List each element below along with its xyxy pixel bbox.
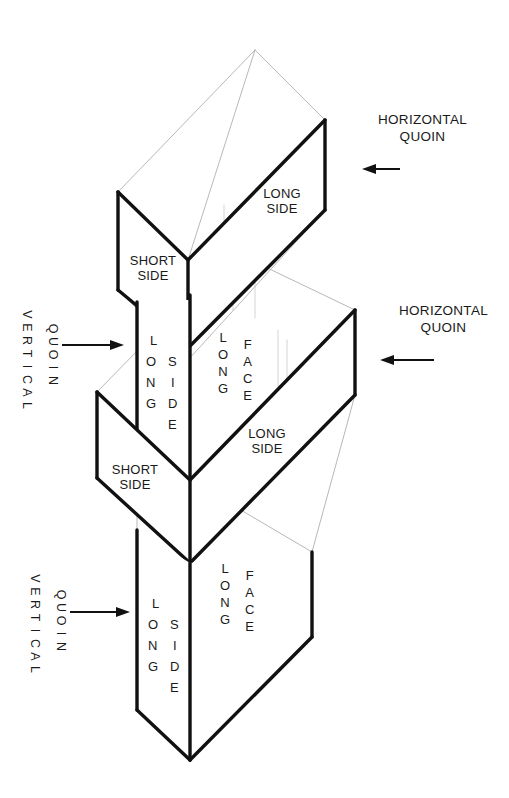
- horizontal-quoin-middle-arrow: [380, 355, 434, 365]
- llf-face-f: F: [246, 568, 254, 585]
- llf-long-g: G: [220, 612, 230, 629]
- vq-l-t: T: [28, 614, 41, 622]
- vq-l-o: O: [54, 616, 67, 626]
- horizontal-quoin-top-arrow: [362, 164, 400, 174]
- horizontal-quoin-top-line1: HORIZONTAL: [355, 112, 490, 129]
- vq-u-q: Q: [46, 324, 59, 334]
- llf-face-e: E: [245, 619, 254, 636]
- lower-long-face-face-word: F A C E: [245, 568, 254, 636]
- middle-short-side-label: SHORT SIDE: [106, 462, 164, 493]
- top-long-side-label: LONG SIDE: [253, 186, 311, 217]
- ll-long-g: G: [148, 659, 158, 674]
- ll-side-d: D: [170, 659, 179, 674]
- vq-u-u: U: [46, 337, 59, 346]
- ul-side-i: I: [171, 375, 175, 390]
- lower-long-side-side-word: S I D E: [170, 617, 210, 707]
- ulf-long-l: L: [219, 330, 226, 347]
- vq-u-i2: I: [46, 366, 59, 369]
- ll-long-o: O: [148, 617, 158, 632]
- upper-long-face-face-word: F A C E: [243, 337, 252, 405]
- middle-long-side-label: LONG SIDE: [238, 426, 296, 457]
- ulf-face-a: A: [243, 354, 252, 371]
- vq-u-c: C: [20, 375, 33, 384]
- ul-long-l: L: [150, 333, 157, 348]
- vq-l-l: L: [28, 666, 41, 673]
- ul-side-e: E: [168, 417, 177, 432]
- middle-long-side-line1: LONG: [238, 426, 296, 441]
- vq-l-v: V: [28, 574, 41, 582]
- vq-u-e: E: [20, 323, 33, 331]
- ulf-long-n: N: [218, 364, 227, 381]
- vq-l-a: A: [28, 652, 41, 660]
- llf-face-c: C: [245, 602, 254, 619]
- vq-u-n: N: [46, 376, 59, 385]
- ul-side-d: D: [168, 396, 177, 411]
- vq-l-i: I: [28, 629, 41, 632]
- upper-long-side-side-word: S I D E: [168, 354, 208, 444]
- vertical-quoin-upper-word2: Q U O I N: [48, 322, 58, 387]
- ulf-long-g: G: [218, 381, 228, 398]
- llf-long-l: L: [221, 561, 228, 578]
- vq-u-t: T: [20, 350, 33, 358]
- vq-l-c: C: [28, 639, 41, 648]
- ll-side-i: I: [173, 638, 177, 653]
- horizontal-quoin-middle-line1: HORIZONTAL: [378, 303, 509, 320]
- vertical-quoin-lower-arrow: [70, 607, 130, 617]
- middle-short-side-line1: SHORT: [106, 462, 164, 477]
- llf-long-o: O: [220, 578, 230, 595]
- vq-u-l: L: [20, 402, 33, 409]
- ulf-long-o: O: [218, 347, 228, 364]
- vq-u-r: R: [20, 336, 33, 345]
- ulf-face-f: F: [244, 337, 252, 354]
- ll-side-s: S: [170, 617, 179, 632]
- ll-side-e: E: [170, 680, 179, 695]
- vq-u-a: A: [20, 388, 33, 396]
- horizontal-quoin-middle-line2: QUOIN: [378, 320, 509, 337]
- ul-long-g: G: [146, 396, 156, 411]
- ulf-face-e: E: [243, 388, 252, 405]
- llf-face-a: A: [245, 585, 254, 602]
- ul-long-o: O: [146, 354, 156, 369]
- middle-long-side-line2: SIDE: [238, 441, 296, 456]
- vq-u-v: V: [20, 310, 33, 318]
- horizontal-quoin-top-line2: QUOIN: [355, 129, 490, 146]
- top-short-side-line2: SIDE: [124, 268, 182, 283]
- top-short-side-line1: SHORT: [124, 253, 182, 268]
- diagram-canvas: HORIZONTAL QUOIN HORIZONTAL QUOIN V E R …: [0, 0, 509, 798]
- vq-l-n: N: [54, 642, 67, 651]
- horizontal-quoin-top-label: HORIZONTAL QUOIN: [355, 112, 490, 146]
- horizontal-quoin-middle-label: HORIZONTAL QUOIN: [378, 303, 509, 337]
- vq-l-q: Q: [54, 590, 67, 600]
- ul-side-s: S: [168, 354, 177, 369]
- top-long-side-line2: SIDE: [253, 201, 311, 216]
- vq-l-u: U: [54, 603, 67, 612]
- middle-short-side-line2: SIDE: [106, 477, 164, 492]
- vq-u-i: I: [20, 365, 33, 368]
- ul-long-n: N: [146, 375, 155, 390]
- ll-long-n: N: [148, 638, 157, 653]
- vq-l-i2: I: [54, 632, 67, 635]
- vertical-quoin-upper-word1: V E R T I C A L: [22, 308, 31, 412]
- vertical-quoin-lower-word2: Q U O I N: [56, 588, 66, 653]
- upper-long-face-long-word: L O N G: [218, 330, 228, 398]
- top-long-side-line1: LONG: [253, 186, 311, 201]
- ll-long-l: L: [152, 596, 159, 611]
- vq-u-o: O: [46, 350, 59, 360]
- vertical-quoin-upper-arrow: [62, 340, 124, 350]
- vertical-quoin-lower-word1: V E R T I C A L: [30, 572, 39, 676]
- lower-long-face-long-word: L O N G: [220, 561, 230, 629]
- vq-l-r: R: [28, 600, 41, 609]
- ulf-face-c: C: [243, 371, 252, 388]
- vq-l-e: E: [28, 587, 41, 595]
- llf-long-n: N: [220, 595, 229, 612]
- top-short-side-label: SHORT SIDE: [124, 253, 182, 284]
